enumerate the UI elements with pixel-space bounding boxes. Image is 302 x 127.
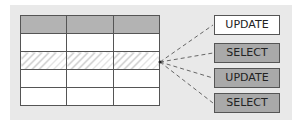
operation-box-select: SELECT <box>214 43 280 63</box>
connector-line <box>160 62 213 103</box>
connector-line <box>160 53 213 62</box>
operation-label: SELECT <box>226 96 267 109</box>
operation-box-update: UPDATE <box>214 15 280 35</box>
connector-line <box>160 62 213 78</box>
operation-label: UPDATE <box>225 71 268 84</box>
connector-origin-dot <box>159 61 162 64</box>
connector-line <box>160 25 213 62</box>
operation-label: UPDATE <box>225 18 268 31</box>
operation-label: SELECT <box>226 46 267 59</box>
operation-box-select: SELECT <box>214 93 280 113</box>
operation-box-update: UPDATE <box>214 68 280 88</box>
